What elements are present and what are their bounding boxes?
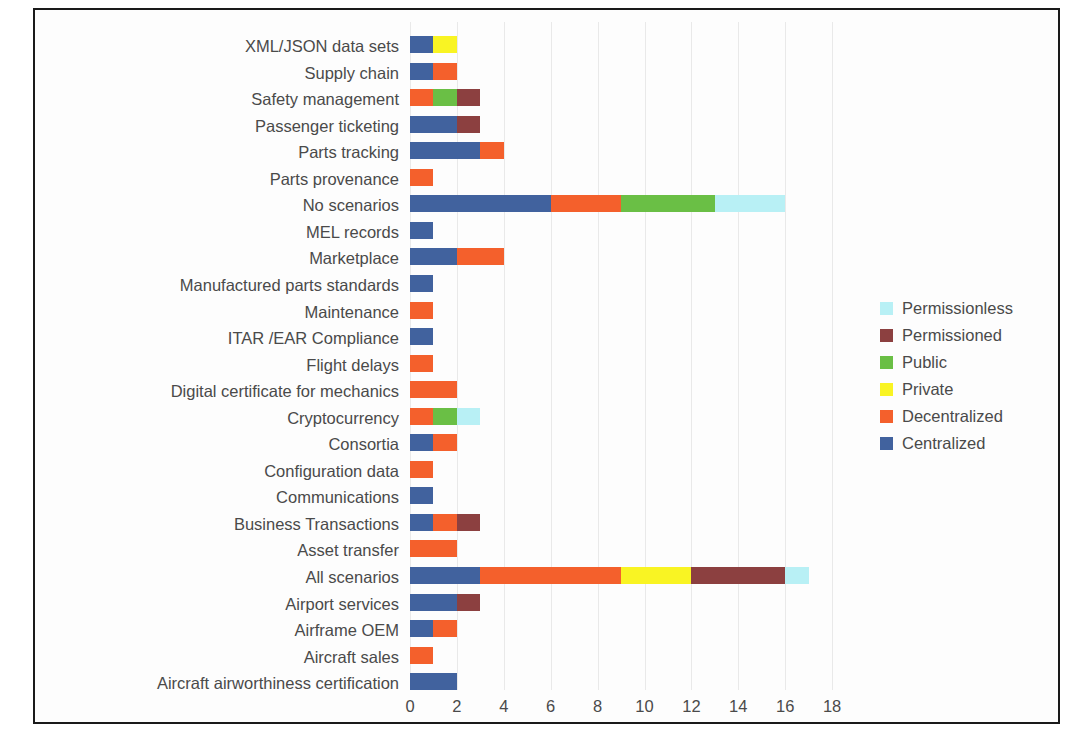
- legend-item[interactable]: Permissionless: [880, 295, 1055, 322]
- legend-item[interactable]: Decentralized: [880, 403, 1055, 430]
- legend-label: Public: [902, 354, 947, 371]
- category-label: Business Transactions: [234, 516, 399, 533]
- x-tick-label: 12: [682, 698, 700, 715]
- bar-row: [410, 594, 480, 611]
- bar-segment-centralized: [410, 434, 433, 451]
- category-label: Communications: [276, 489, 399, 506]
- bar-segment-centralized: [410, 620, 433, 637]
- bar-segment-public: [621, 195, 715, 212]
- bar-row: [410, 63, 457, 80]
- bar-row: [410, 36, 457, 53]
- x-tick-label: 10: [635, 698, 653, 715]
- category-label: MEL records: [306, 224, 399, 241]
- category-label: Airframe OEM: [294, 622, 399, 639]
- category-label: Supply chain: [305, 65, 399, 82]
- bar-segment-decentralized: [410, 89, 433, 106]
- category-label: All scenarios: [305, 569, 399, 586]
- gridline-4: [504, 22, 505, 690]
- category-label: Airport services: [285, 596, 399, 613]
- category-label: Marketplace: [309, 250, 399, 267]
- legend-swatch-icon: [880, 437, 893, 450]
- x-tick-label: 16: [776, 698, 794, 715]
- gridline-14: [738, 22, 739, 690]
- bar-row: [410, 647, 433, 664]
- bar-segment-permissioned: [691, 567, 785, 584]
- legend-label: Decentralized: [902, 408, 1003, 425]
- category-label: Safety management: [251, 91, 399, 108]
- category-label: Configuration data: [264, 463, 399, 480]
- bar-segment-centralized: [410, 594, 457, 611]
- bar-segment-permissionless: [785, 567, 808, 584]
- legend-label: Centralized: [902, 435, 985, 452]
- category-label: Flight delays: [306, 357, 399, 374]
- bar-row: [410, 567, 809, 584]
- bar-segment-decentralized: [410, 461, 433, 478]
- category-label: XML/JSON data sets: [245, 38, 399, 55]
- bar-segment-public: [433, 408, 456, 425]
- bar-row: [410, 222, 433, 239]
- gridline-12: [691, 22, 692, 690]
- bar-segment-decentralized: [551, 195, 621, 212]
- category-label: Manufactured parts standards: [180, 277, 399, 294]
- bar-segment-decentralized: [480, 142, 503, 159]
- x-tick-label: 14: [729, 698, 747, 715]
- bar-row: [410, 142, 504, 159]
- bar-segment-centralized: [410, 567, 480, 584]
- bar-row: [410, 328, 433, 345]
- gridline-6: [551, 22, 552, 690]
- category-label: Asset transfer: [297, 542, 399, 559]
- legend-swatch-icon: [880, 302, 893, 315]
- bar-segment-centralized: [410, 142, 480, 159]
- bar-segment-centralized: [410, 222, 433, 239]
- legend-swatch-icon: [880, 383, 893, 396]
- bar-segment-decentralized: [433, 620, 456, 637]
- bar-row: [410, 434, 457, 451]
- stacked-bar-chart: XML/JSON data setsSupply chainSafety man…: [35, 10, 1062, 722]
- legend-item[interactable]: Permissioned: [880, 322, 1055, 349]
- bar-segment-centralized: [410, 116, 457, 133]
- x-axis-ticks: 024681012141618: [410, 698, 870, 722]
- figure-frame: XML/JSON data setsSupply chainSafety man…: [33, 8, 1060, 724]
- gridline-10: [645, 22, 646, 690]
- bar-segment-permissioned: [457, 594, 480, 611]
- bar-row: [410, 673, 457, 690]
- bar-segment-centralized: [410, 248, 457, 265]
- legend-label: Permissioned: [902, 327, 1002, 344]
- bar-segment-public: [433, 89, 456, 106]
- legend-swatch-icon: [880, 329, 893, 342]
- bar-row: [410, 355, 433, 372]
- bar-segment-centralized: [410, 328, 433, 345]
- bar-segment-permissioned: [457, 116, 480, 133]
- chart-legend: PermissionlessPermissionedPublicPrivateD…: [880, 295, 1055, 457]
- bar-segment-decentralized: [410, 540, 457, 557]
- bar-segment-decentralized: [410, 169, 433, 186]
- x-tick-label: 6: [546, 698, 555, 715]
- plot-area: XML/JSON data setsSupply chainSafety man…: [410, 22, 854, 690]
- bar-segment-decentralized: [433, 434, 456, 451]
- x-tick-label: 2: [452, 698, 461, 715]
- x-tick-label: 0: [405, 698, 414, 715]
- x-tick-label: 4: [499, 698, 508, 715]
- bar-segment-centralized: [410, 36, 433, 53]
- bar-segment-centralized: [410, 63, 433, 80]
- legend-item[interactable]: Public: [880, 349, 1055, 376]
- bar-row: [410, 302, 433, 319]
- bar-segment-private: [621, 567, 691, 584]
- category-label: Aircraft airworthiness certification: [157, 675, 399, 692]
- legend-item[interactable]: Centralized: [880, 430, 1055, 457]
- bar-segment-decentralized: [410, 381, 457, 398]
- copyright-notice: © SAE International: [0, 711, 2, 733]
- bar-segment-decentralized: [410, 302, 433, 319]
- bar-segment-permissioned: [457, 514, 480, 531]
- legend-item[interactable]: Private: [880, 376, 1055, 403]
- bar-row: [410, 89, 480, 106]
- bar-segment-centralized: [410, 195, 551, 212]
- x-tick-label: 8: [593, 698, 602, 715]
- category-label: No scenarios: [303, 197, 399, 214]
- gridline-8: [598, 22, 599, 690]
- figure-page: © SAE International XML/JSON data setsSu…: [0, 0, 1068, 739]
- category-label: Digital certificate for mechanics: [171, 383, 399, 400]
- bar-row: [410, 620, 457, 637]
- bar-row: [410, 487, 433, 504]
- bar-row: [410, 408, 480, 425]
